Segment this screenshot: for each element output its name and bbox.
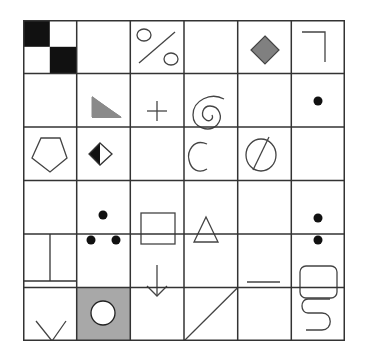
three-dots-icon: [87, 211, 121, 245]
dot-icon: [314, 97, 323, 106]
pentagon-icon: [32, 138, 67, 172]
checker-icon: [23, 20, 77, 74]
spiral-icon: [193, 96, 224, 128]
diagonal-line-icon: [184, 288, 238, 342]
c-shape-icon: [189, 143, 207, 172]
plus-icon: [147, 101, 167, 121]
square-icon: [141, 213, 175, 244]
corner-icon: [302, 32, 325, 62]
triangle-icon: [194, 217, 218, 242]
two-dots-icon: [314, 214, 323, 245]
split-rectangle-icon: [23, 234, 77, 281]
empty-set-icon: [246, 137, 276, 171]
diamond-icon: [251, 36, 279, 64]
grid-svg: [23, 20, 345, 341]
v-shape-icon: [36, 321, 66, 341]
s-shape-icon: [302, 299, 330, 330]
rounded-square-icon: [300, 266, 337, 298]
circle-icon: [91, 301, 115, 325]
symbol-grid: [23, 20, 345, 341]
percent-icon: [137, 29, 178, 65]
down-arrow-icon: [147, 265, 167, 296]
half-filled-diamond-icon: [89, 143, 112, 165]
